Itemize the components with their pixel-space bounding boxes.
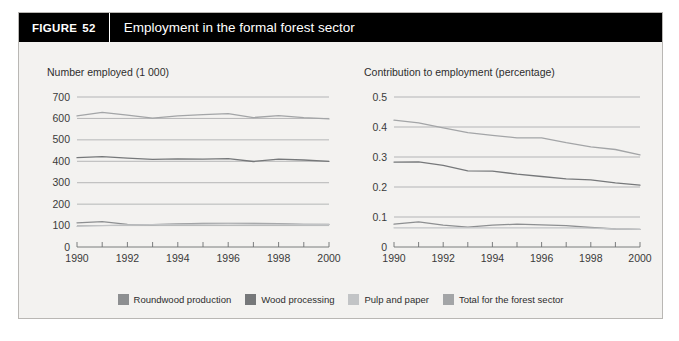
legend-item-label: Roundwood production <box>134 294 232 305</box>
x-tick-label: 1994 <box>481 252 505 264</box>
chart-panel-contribution: Contribution to employment (percentage) … <box>344 42 662 287</box>
y-tick-label: 500 <box>52 133 70 145</box>
legend-item[interactable]: Roundwood production <box>118 294 232 305</box>
legend-swatch-icon <box>443 294 454 305</box>
y-tick-label: 0 <box>381 241 387 253</box>
legend-item-label: Pulp and paper <box>364 294 428 305</box>
y-tick-label: 0 <box>64 241 70 253</box>
y-tick-label: 300 <box>52 176 70 188</box>
y-tick-label: 0.3 <box>372 151 387 163</box>
chart-left-plot: 0100200300400500600700199019921994199619… <box>19 42 344 287</box>
x-tick-label: 1992 <box>432 252 456 264</box>
legend-item-label: Total for the forest sector <box>459 294 564 305</box>
chart-series-line <box>394 120 640 155</box>
y-tick-label: 0.1 <box>372 211 387 223</box>
chart-legend: Roundwood productionWood processingPulp … <box>19 289 662 309</box>
y-tick-label: 0.4 <box>372 121 387 133</box>
legend-swatch-icon <box>245 294 256 305</box>
y-tick-label: 400 <box>52 155 70 167</box>
figure-number: FIGURE52 <box>19 22 109 34</box>
x-tick-label: 1998 <box>267 252 291 264</box>
figure-titlebar: FIGURE52 Employment in the formal forest… <box>19 13 662 42</box>
figure-root: FIGURE52 Employment in the formal forest… <box>0 0 679 341</box>
figure-number-label: FIGURE <box>32 22 77 34</box>
chart-panel-number-employed: Number employed (1 000) 0100200300400500… <box>19 42 344 287</box>
x-tick-label: 2000 <box>317 252 341 264</box>
y-tick-label: 100 <box>52 219 70 231</box>
legend-item[interactable]: Pulp and paper <box>348 294 428 305</box>
x-tick-label: 1996 <box>217 252 241 264</box>
legend-item[interactable]: Wood processing <box>245 294 334 305</box>
y-tick-label: 0.5 <box>372 91 387 103</box>
x-tick-label: 1992 <box>116 252 140 264</box>
chart-series-line <box>394 228 640 230</box>
legend-item[interactable]: Total for the forest sector <box>443 294 564 305</box>
y-tick-label: 700 <box>52 91 70 103</box>
x-tick-label: 1996 <box>530 252 554 264</box>
x-tick-label: 1990 <box>382 252 406 264</box>
x-tick-label: 1990 <box>65 252 89 264</box>
y-tick-label: 600 <box>52 112 70 124</box>
figure-card: FIGURE52 Employment in the formal forest… <box>18 12 663 319</box>
legend-swatch-icon <box>348 294 359 305</box>
x-tick-label: 1998 <box>579 252 603 264</box>
chart-right-plot: 00.10.20.30.40.5199019921994199619982000 <box>344 42 662 287</box>
legend-item-label: Wood processing <box>261 294 334 305</box>
chart-series-line <box>77 112 329 118</box>
y-tick-label: 200 <box>52 198 70 210</box>
legend-swatch-icon <box>118 294 129 305</box>
chart-series-line <box>77 224 329 227</box>
figure-number-value: 52 <box>82 22 95 34</box>
x-tick-label: 1994 <box>166 252 190 264</box>
figure-title: Employment in the formal forest sector <box>110 20 355 35</box>
chart-series-line <box>394 162 640 185</box>
x-tick-label: 2000 <box>628 252 652 264</box>
y-tick-label: 0.2 <box>372 181 387 193</box>
chart-series-line <box>77 157 329 162</box>
